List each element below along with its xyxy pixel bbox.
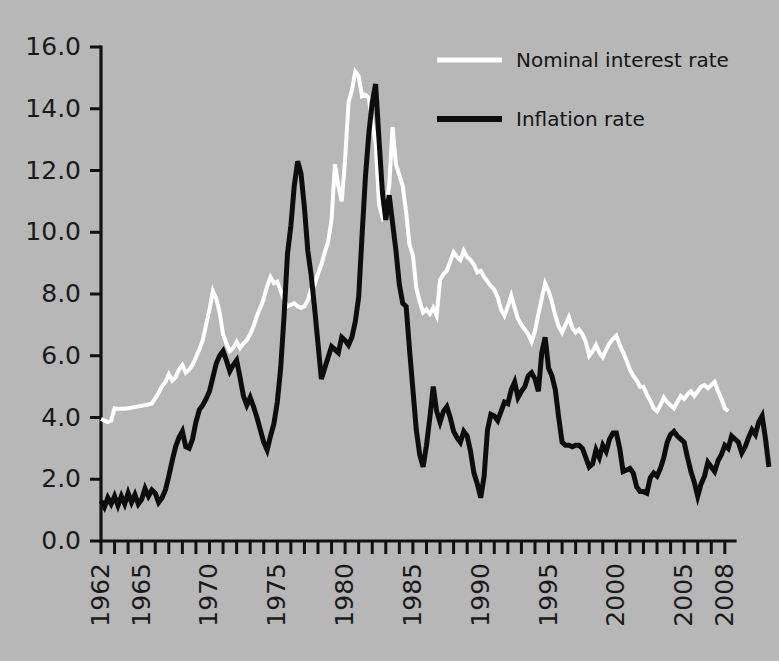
series-line-inflation-rate [101, 84, 769, 507]
y-tick-label: 16.0 [25, 32, 81, 61]
x-tick-label: 1990 [466, 563, 495, 627]
x-tick-label: 1970 [194, 563, 223, 627]
x-tick-label: 1965 [127, 563, 156, 627]
y-tick-label: 4.0 [41, 403, 81, 432]
x-tick-label: 2008 [710, 563, 739, 627]
y-tick-label: 2.0 [41, 464, 81, 493]
x-tick-label: 1975 [262, 563, 291, 627]
legend-label-inflation-rate: Inflation rate [516, 107, 645, 131]
y-tick-label: 0.0 [41, 526, 81, 555]
chart-plot-area: 0.02.04.06.08.010.012.014.016.0196219651… [0, 0, 779, 661]
y-tick-label: 12.0 [25, 156, 81, 185]
y-tick-label: 10.0 [25, 217, 81, 246]
x-tick-label: 2000 [601, 563, 630, 627]
x-tick-label: 1985 [398, 563, 427, 627]
x-tick-label: 1995 [534, 563, 563, 627]
y-tick-label: 14.0 [25, 94, 81, 123]
chart-figure: 0.02.04.06.08.010.012.014.016.0196219651… [0, 0, 779, 661]
x-tick-label: 1962 [86, 563, 115, 627]
y-tick-label: 6.0 [41, 341, 81, 370]
x-tick-label: 1980 [330, 563, 359, 627]
x-tick-label: 2005 [669, 563, 698, 627]
legend-label-nominal-interest-rate: Nominal interest rate [516, 48, 729, 72]
y-tick-label: 8.0 [41, 279, 81, 308]
